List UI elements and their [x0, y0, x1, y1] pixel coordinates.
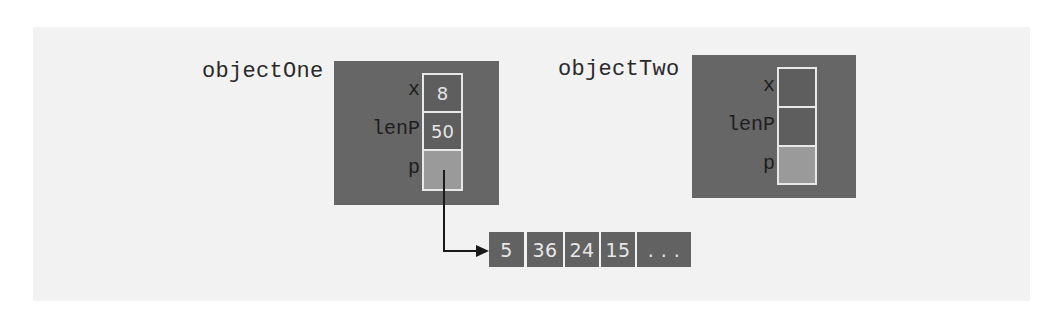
array-cell-ellipsis: . . .	[637, 232, 691, 267]
object-one-slot-x: 8	[422, 73, 463, 113]
object-two-field-p-label: p	[763, 154, 775, 174]
object-one-field-lenP-label: lenP	[372, 119, 420, 139]
object-two-label: objectTwo	[558, 59, 680, 81]
object-one-field-p-label: p	[408, 158, 420, 178]
object-two-field-x-label: x	[763, 76, 775, 96]
object-two-box: x lenP p	[692, 55, 856, 198]
object-two-slot-x	[777, 67, 817, 108]
object-two-field-lenP-label: lenP	[727, 115, 775, 135]
array-cell-0: 5	[489, 232, 524, 267]
object-two-slot-lenP	[777, 106, 817, 147]
object-one-box: x lenP p 8 50	[334, 61, 499, 205]
object-one-slot-lenP: 50	[422, 111, 463, 151]
object-two-slot-p	[777, 145, 817, 185]
array-cell-2: 24	[565, 232, 599, 267]
object-one-field-x-label: x	[408, 80, 420, 100]
array-cell-1: 36	[527, 232, 563, 267]
array-cell-3: 15	[601, 232, 635, 267]
object-one-slot-p	[422, 149, 463, 191]
object-one-label: objectOne	[202, 61, 324, 83]
